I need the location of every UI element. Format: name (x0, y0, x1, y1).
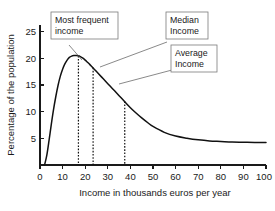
x-tick-label-100: 100 (256, 171, 272, 182)
x-tick-label-90: 90 (238, 171, 249, 182)
y-tick-label-5: 5 (31, 133, 36, 144)
y-axis-tick-labels: 5 10 15 20 25 (25, 26, 36, 145)
x-tick-label-40: 40 (125, 171, 136, 182)
x-tick-label-30: 30 (103, 171, 114, 182)
callout-mean-line1: Average (175, 48, 208, 58)
callout-mean-line2: Income (175, 59, 204, 69)
marker-lines (78, 56, 124, 165)
y-tick-label-25: 25 (25, 26, 36, 37)
y-tick-label-15: 15 (25, 79, 36, 90)
chart-figure: 5 10 15 20 25 0 10 20 30 40 50 (0, 0, 275, 211)
callout-leader-lines (69, 42, 172, 84)
callout-mode-line2: income (55, 26, 83, 36)
y-tick-label-20: 20 (25, 53, 36, 64)
distribution-curve (45, 55, 266, 165)
y-tick-label-10: 10 (25, 106, 36, 117)
x-tick-label-70: 70 (193, 171, 204, 182)
x-axis-tick-labels: 0 10 20 30 40 50 60 70 80 90 100 (37, 171, 272, 182)
x-tick-label-10: 10 (57, 171, 68, 182)
callout-median-income[interactable]: Median Income (166, 12, 208, 39)
callout-median-line2: Income (170, 26, 199, 36)
x-tick-label-0: 0 (37, 171, 42, 182)
leader-line-median (100, 42, 167, 67)
callout-average-income[interactable]: Average Income (171, 45, 217, 72)
leader-line-mean (119, 70, 172, 84)
income-distribution-chart: 5 10 15 20 25 0 10 20 30 40 50 (0, 0, 275, 211)
callout-mode-line1: Most frequent (55, 15, 109, 25)
y-axis-title: Percentage of the population (5, 34, 16, 155)
axes-group (40, 25, 266, 165)
leader-line-mode (69, 45, 82, 60)
callout-median-line1: Median (170, 15, 199, 25)
x-tick-label-50: 50 (148, 171, 159, 182)
x-tick-label-20: 20 (80, 171, 91, 182)
x-tick-label-60: 60 (170, 171, 181, 182)
x-axis-title: Income in thousands euros per year (79, 187, 231, 198)
x-tick-label-80: 80 (216, 171, 227, 182)
callout-most-frequent-income[interactable]: Most frequent income (51, 12, 118, 39)
